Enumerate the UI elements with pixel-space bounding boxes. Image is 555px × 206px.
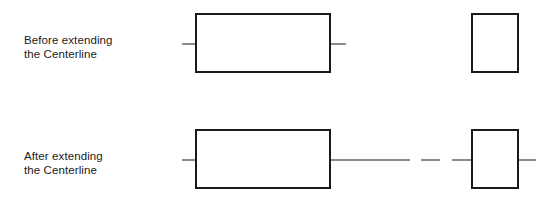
row-after bbox=[182, 130, 536, 188]
row-before bbox=[182, 14, 518, 72]
rectangle-after bbox=[196, 130, 330, 188]
diagram-canvas: Before extending the Centerline After ex… bbox=[0, 0, 555, 206]
technical-drawing bbox=[0, 0, 555, 206]
rectangle-before bbox=[196, 14, 330, 72]
square-before bbox=[472, 14, 518, 72]
square-after bbox=[472, 130, 518, 188]
